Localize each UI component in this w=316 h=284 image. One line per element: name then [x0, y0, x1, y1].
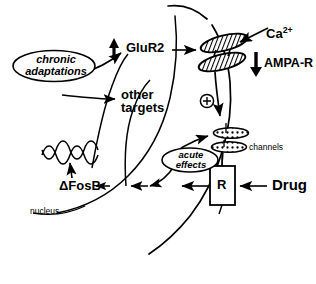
channels-label: channels	[249, 143, 283, 152]
diagram-canvas: GluR2 Ca2+ AMPA-R other targets chronic …	[0, 0, 316, 284]
ampa-receptor-icon	[197, 30, 249, 75]
other-targets-label-line2: targets	[121, 101, 164, 115]
nucleus-label: nucleus	[30, 207, 59, 216]
receptor-label: R	[217, 178, 226, 192]
dna-squiggle-icon	[42, 141, 98, 164]
glur2-label: GluR2	[126, 41, 164, 55]
up-arrow-icon-glur2	[109, 38, 119, 60]
ampa-r-label: AMPA-R	[264, 57, 313, 70]
arrow-fosb-to-dna	[70, 163, 72, 178]
acute-effects-label-line2: effects	[168, 160, 214, 170]
delta-fosb-label: ΔFosB	[59, 179, 101, 193]
plus-circle-icon	[200, 94, 213, 107]
arrow-to-other-targets	[62, 95, 115, 99]
down-arrow-icon-ampa	[250, 52, 262, 77]
chronic-adaptations-label-line2: adaptations	[17, 66, 95, 78]
drug-label: Drug	[272, 177, 307, 193]
calcium-label: Ca2+	[266, 26, 293, 41]
chronic-adaptations-label-line1: chronic	[25, 54, 87, 66]
arrow-receptor-to-channels	[215, 72, 220, 116]
